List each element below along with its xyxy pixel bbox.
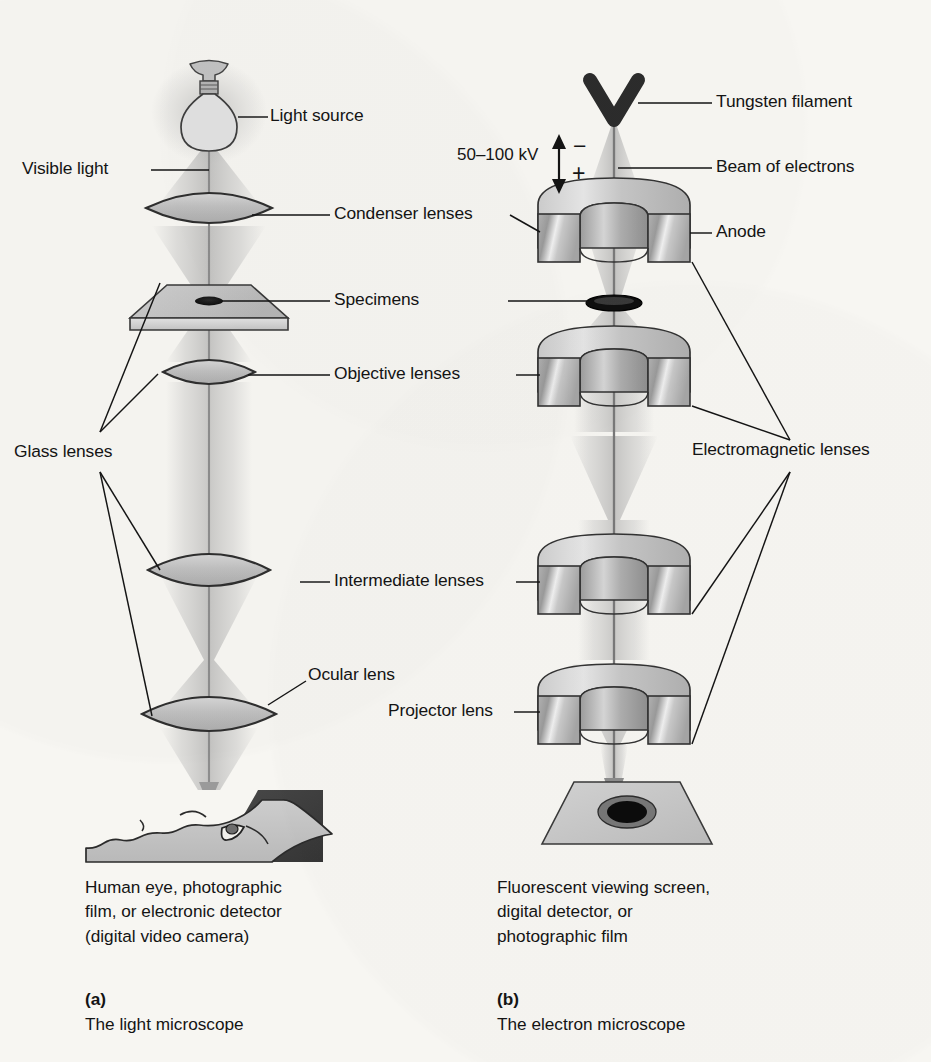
caption-electron-detector: Fluorescent viewing screen, digital dete… <box>497 875 710 948</box>
viewing-screen <box>542 782 712 844</box>
positive-polarity-symbol: + <box>572 162 585 185</box>
objective-lens-glass <box>163 360 255 384</box>
label-glass-lenses: Glass lenses <box>14 443 112 461</box>
negative-polarity-symbol: − <box>573 135 586 158</box>
caption-light-detector: Human eye, photographic film, or electro… <box>85 875 282 948</box>
caption-panel-a-label: (a) <box>85 989 106 1009</box>
specimen-disc <box>586 295 642 311</box>
label-condenser-lenses: Condenser lenses <box>334 205 473 223</box>
specimen-slide <box>130 285 288 330</box>
caption-panel-a: (a) The light microscope <box>85 963 244 1036</box>
light-microscope-column <box>68 60 332 862</box>
label-tungsten-filament: Tungsten filament <box>716 93 852 111</box>
label-light-source: Light source <box>270 107 364 125</box>
label-projector-lens: Projector lens <box>388 702 493 720</box>
figure-canvas: Light source Visible light Glass lenses … <box>0 0 931 1062</box>
label-visible-light: Visible light <box>22 160 108 178</box>
label-specimens: Specimens <box>334 291 419 309</box>
caption-panel-b: (b) The electron microscope <box>497 963 685 1036</box>
label-accelerating-voltage: 50–100 kV <box>457 145 538 165</box>
caption-panel-a-title: The light microscope <box>85 1014 244 1034</box>
label-anode: Anode <box>716 223 766 241</box>
tungsten-filament <box>590 80 638 120</box>
label-intermediate-lenses: Intermediate lenses <box>334 572 484 590</box>
ocular-lens-glass <box>142 697 276 731</box>
label-ocular-lens: Ocular lens <box>308 666 395 684</box>
electron-microscope-column <box>538 80 712 844</box>
label-electromagnetic-lenses: Electromagnetic lenses <box>692 441 870 459</box>
label-objective-lenses: Objective lenses <box>334 365 460 383</box>
label-beam-of-electrons: Beam of electrons <box>716 158 854 176</box>
caption-panel-b-title: The electron microscope <box>497 1014 685 1034</box>
human-eye-observer <box>68 790 332 862</box>
caption-panel-b-label: (b) <box>497 989 519 1009</box>
